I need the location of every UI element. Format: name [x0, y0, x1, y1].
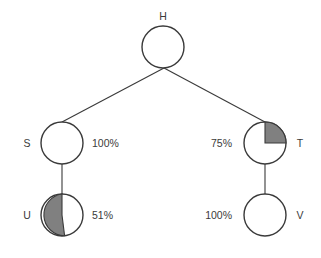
tree-diagram: H S T U V 100% 75% 51% 100%: [0, 0, 321, 258]
node-h-circle[interactable]: [142, 26, 184, 68]
node-label-v: V: [296, 209, 303, 221]
percent-label-v: 100%: [205, 209, 232, 221]
node-label-u: U: [23, 209, 31, 221]
edge-h-to-t: [164, 68, 265, 122]
node-label-h: H: [159, 10, 167, 22]
diagram-canvas: H S T U V 100% 75% 51% 100%: [0, 0, 321, 258]
percent-label-u: 51%: [92, 209, 113, 221]
node-v-circle[interactable]: [244, 194, 286, 236]
node-t-wedge: [265, 122, 286, 143]
node-label-s: S: [23, 137, 30, 149]
node-s-circle[interactable]: [41, 122, 83, 164]
edge-h-to-s: [62, 68, 164, 122]
percent-label-s: 100%: [92, 137, 119, 149]
node-label-t: T: [297, 137, 304, 149]
percent-label-t: 75%: [211, 137, 232, 149]
